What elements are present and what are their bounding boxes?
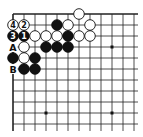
white-stone-icon — [74, 31, 85, 42]
black-stone[interactable] — [41, 42, 52, 53]
white-stone[interactable] — [19, 53, 30, 64]
move-number: 3 — [10, 32, 16, 41]
white-stone-icon — [19, 42, 30, 53]
go-board[interactable]: AB 4231 — [0, 0, 143, 137]
white-stone[interactable] — [74, 31, 85, 42]
white-stone[interactable] — [85, 31, 96, 42]
black-stone[interactable]: 1 — [19, 31, 30, 42]
white-stone-icon — [41, 31, 52, 42]
white-stone[interactable]: 4 — [8, 20, 19, 31]
stones: 4231 — [8, 9, 96, 75]
black-stone[interactable] — [30, 64, 41, 75]
white-stone[interactable] — [74, 9, 85, 20]
black-stone-icon — [52, 20, 63, 31]
white-stone-icon — [19, 53, 30, 64]
white-stone[interactable] — [85, 20, 96, 31]
white-stone[interactable] — [63, 20, 74, 31]
white-stone-icon — [52, 31, 63, 42]
black-stone[interactable] — [52, 42, 63, 53]
white-stone[interactable] — [41, 31, 52, 42]
white-stone[interactable] — [30, 31, 41, 42]
star-point-icon — [45, 112, 48, 115]
black-stone[interactable] — [52, 20, 63, 31]
white-stone[interactable] — [19, 42, 30, 53]
point-label-a: A — [9, 42, 17, 53]
black-stone[interactable] — [30, 53, 41, 64]
white-stone-icon — [74, 9, 85, 20]
star-point-icon — [111, 46, 114, 49]
black-stone-icon — [8, 53, 19, 64]
black-stone-icon — [19, 64, 30, 75]
black-stone[interactable] — [63, 42, 74, 53]
move-number: 1 — [21, 32, 27, 41]
move-number: 4 — [10, 21, 16, 30]
black-stone-icon — [30, 64, 41, 75]
move-number: 2 — [21, 21, 27, 30]
black-stone-icon — [41, 42, 52, 53]
black-stone-icon — [52, 42, 63, 53]
black-stone[interactable] — [8, 53, 19, 64]
black-stone[interactable] — [63, 31, 74, 42]
white-stone-icon — [85, 31, 96, 42]
black-stone-icon — [30, 53, 41, 64]
white-stone[interactable]: 2 — [19, 20, 30, 31]
black-stone-icon — [63, 31, 74, 42]
black-stone[interactable]: 3 — [8, 31, 19, 42]
point-label-b: B — [9, 64, 16, 75]
white-stone[interactable] — [52, 31, 63, 42]
black-stone-icon — [63, 42, 74, 53]
white-stone-icon — [85, 20, 96, 31]
white-stone-icon — [63, 20, 74, 31]
black-stone[interactable] — [19, 64, 30, 75]
white-stone-icon — [30, 31, 41, 42]
star-point-icon — [111, 112, 114, 115]
